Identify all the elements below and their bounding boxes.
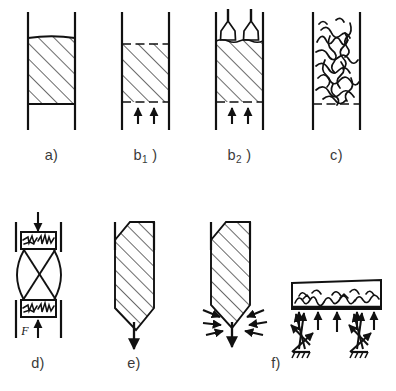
panel-c-turbulent-scribble — [316, 18, 359, 105]
panel-c-column-walls — [313, 12, 360, 130]
panel-d-upper-platen — [21, 232, 56, 249]
panel-b2-upward-arrows — [232, 108, 248, 124]
panel-b1-caption: b1 ) — [133, 147, 157, 165]
panel-f-ground-support-left — [291, 313, 313, 358]
figure-root: a) b1 ) — [0, 0, 396, 391]
panel-b1-hatched-bed — [122, 44, 169, 102]
panel-b2: b2 ) — [216, 9, 263, 165]
panel-f-left-body — [211, 222, 250, 328]
panel-f-ground-support-right — [349, 313, 371, 358]
panel-d: F d) — [16, 212, 61, 371]
panel-a-caption: a) — [45, 147, 59, 163]
panel-a: a) — [28, 12, 75, 163]
panel-c-caption: c) — [330, 147, 343, 163]
panel-b2-caption: b2 ) — [227, 147, 251, 165]
panel-f-caption: f) — [271, 355, 281, 371]
panel-e-hatched-body-pointed — [115, 222, 154, 330]
panel-d-hourglass-linkage — [17, 250, 61, 300]
panel-f: f) — [203, 222, 381, 371]
panel-b2-spray-nozzles — [221, 9, 259, 40]
panel-b2-hatched-bed — [216, 40, 263, 102]
panel-d-lower-platen — [21, 300, 56, 317]
panel-b1-upward-arrows — [138, 108, 154, 124]
panel-c: c) — [313, 12, 360, 163]
panel-b1: b1 ) — [122, 12, 169, 165]
panel-d-force-label: F — [20, 324, 29, 338]
panel-e-caption: e) — [127, 355, 141, 371]
panel-f-scribble-contents — [295, 289, 379, 305]
panel-f-vessel-upward-arrows — [299, 312, 374, 332]
process-stages-figure: a) b1 ) — [0, 0, 396, 391]
panel-d-caption: d) — [31, 355, 45, 371]
panel-e: e) — [115, 222, 154, 371]
panel-a-hatched-bed — [28, 36, 75, 104]
panel-f-horizontal-vessel — [292, 280, 381, 309]
